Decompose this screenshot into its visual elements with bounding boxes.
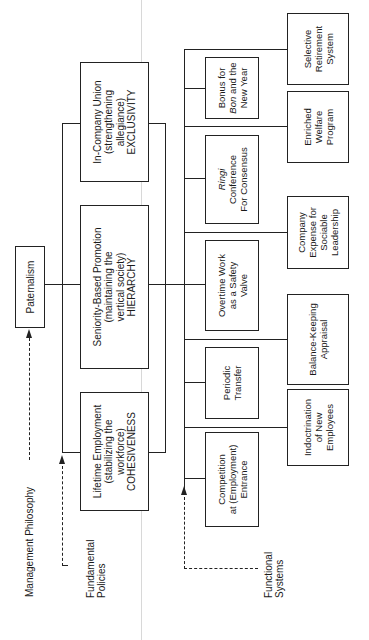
connector-indoctrination <box>184 427 288 428</box>
arrow-up-icon <box>59 455 65 464</box>
system-text-competition: Competition at (Employment) Entrance <box>205 432 259 527</box>
policy-text-lifetime-employment: Lifetime Employment (stabilizing the wor… <box>80 392 149 511</box>
fundamental-right-spine <box>165 123 166 453</box>
functional-dashed-foot <box>184 568 258 569</box>
connector-overtime <box>184 284 206 285</box>
connector-fp-right-1 <box>148 123 165 124</box>
connector-bonus <box>184 88 206 89</box>
fundamental-left-spine <box>62 123 63 453</box>
system-text-indoctrination: Indoctrination of New Employees <box>287 389 349 466</box>
policy-text-seniority-promotion: Seniority-Based Promotion (maintaining t… <box>80 205 149 369</box>
management-philosophy-label: Management Philosophy <box>22 477 36 597</box>
connector-fp-1 <box>62 123 81 124</box>
connector-enriched-welfare <box>184 126 288 127</box>
fundamental-dashed-line <box>62 466 63 566</box>
connector-fp-right-3 <box>148 452 165 453</box>
system-text-periodic-transfer: Periodic Transfer <box>205 347 259 419</box>
system-text-selective-retirement: Selective Retirement System <box>287 13 349 85</box>
connector-fp-3 <box>62 452 81 453</box>
arrow-up-icon <box>181 486 187 495</box>
philosophy-dashed-line <box>29 338 30 460</box>
system-text-company-expense: Company Expense for Sociable Leadership <box>287 196 349 269</box>
connector-balance-keeping <box>184 339 288 340</box>
fundamental-policies-label: Fundamental Policies <box>78 528 102 598</box>
arrow-up-icon <box>26 329 32 338</box>
policy-text-in-company-union: In-Company Union (strengthening allegian… <box>80 62 149 182</box>
fundamental-dashed-foot <box>62 565 68 566</box>
functional-dashed-line <box>184 497 185 569</box>
connector-periodic-transfer <box>184 382 206 383</box>
connector-competition <box>184 478 206 479</box>
system-text-balance-keeping: Balance-Keeping Appraisal <box>287 294 349 385</box>
functional-systems-label: Functional Systems <box>262 526 286 598</box>
system-text-overtime: Overtime Work as a Safety Valve <box>205 240 259 331</box>
paternalism-label: Paternalism <box>15 246 45 328</box>
system-text-bonus: Bonus for Bon and the New Year <box>205 57 259 119</box>
connector-selective-retirement <box>184 49 288 50</box>
connector-fp-right-2 <box>148 284 185 285</box>
connector-ringi <box>184 178 206 179</box>
connector-company-expense <box>184 232 288 233</box>
system-text-enriched-welfare: Enriched Welfare Program <box>287 91 349 163</box>
functional-spine <box>184 49 185 495</box>
system-text-ringi: Ringi Conference For Consensus <box>205 135 259 224</box>
